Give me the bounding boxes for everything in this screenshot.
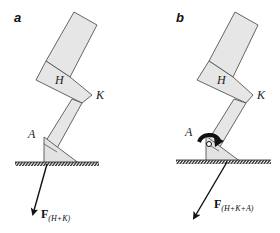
knee-label-a: K xyxy=(95,88,105,102)
panel-label-b: b xyxy=(176,10,184,25)
panel-label-a: a xyxy=(14,10,21,25)
diagram-canvas: a H K A F(H+K) b xyxy=(0,0,280,233)
force-label-a: F(H+K) xyxy=(41,207,71,223)
foot-segment-a xyxy=(44,137,80,164)
panel-a: a H K A F(H+K) xyxy=(14,10,105,223)
ground-hatch-b xyxy=(176,160,271,164)
knee-label-b: K xyxy=(256,88,266,102)
panel-b: b H K A F(H+K+A) xyxy=(176,10,271,218)
ankle-label-a: A xyxy=(27,127,36,141)
ankle-label-b: A xyxy=(184,125,193,139)
hip-label-b: H xyxy=(216,73,227,87)
hip-label-a: H xyxy=(54,73,65,87)
ground-hatch-a xyxy=(15,162,99,166)
force-label-b: F(H+K+A) xyxy=(214,197,254,213)
